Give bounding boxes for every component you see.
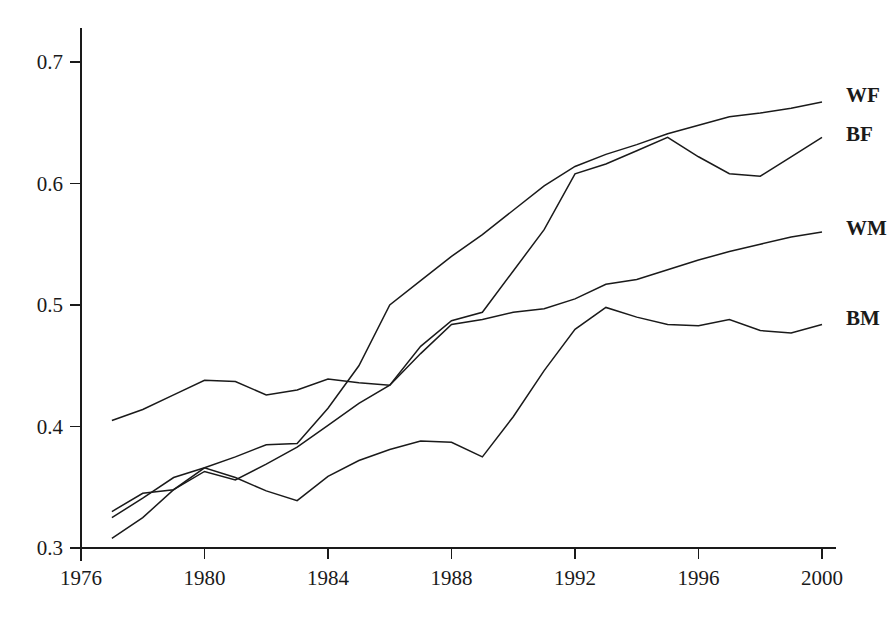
y-tick-label: 0.7 (37, 50, 63, 74)
series-line-bm (112, 307, 822, 511)
x-tick-label: 2000 (801, 566, 843, 590)
x-tick-label: 1980 (184, 566, 226, 590)
y-tick-label: 0.5 (37, 293, 63, 317)
y-tick-label: 0.3 (37, 536, 63, 560)
x-tick-label: 1996 (678, 566, 720, 590)
series-labels: WFBFWMBM (846, 83, 887, 331)
chart-canvas: 0.30.40.50.60.7 197619801984198819921996… (0, 0, 892, 621)
x-tick-label: 1988 (431, 566, 473, 590)
x-axis: 1976198019841988199219962000 (60, 548, 843, 590)
line-chart: 0.30.40.50.60.7 197619801984198819921996… (0, 0, 892, 621)
series-lines (112, 102, 822, 538)
y-tick-label: 0.6 (37, 172, 63, 196)
x-tick-label: 1984 (307, 566, 350, 590)
y-axis: 0.30.40.50.60.7 (37, 28, 81, 560)
series-line-wf (112, 102, 822, 518)
x-tick-label: 1976 (60, 566, 102, 590)
x-tick-label: 1992 (554, 566, 596, 590)
y-tick-label: 0.4 (37, 415, 64, 439)
series-line-bf (112, 137, 822, 538)
series-label-bm: BM (846, 306, 880, 330)
series-label-wf: WF (846, 83, 880, 107)
series-label-bf: BF (846, 122, 873, 146)
series-label-wm: WM (846, 216, 887, 240)
series-line-wm (112, 232, 822, 420)
